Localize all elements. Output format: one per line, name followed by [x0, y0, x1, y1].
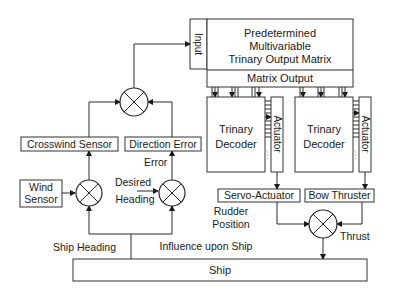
wind-sensor-line1: Wind — [29, 181, 53, 193]
top-sum-to-input — [134, 44, 190, 88]
matrix-to-left-decoder-lines — [212, 87, 259, 97]
matrix-title-line3: Trinary Output Matrix — [229, 53, 332, 65]
wind-sensor-block: Wind Sensor — [20, 180, 62, 207]
decoder-right-line1: Trinary — [307, 123, 341, 135]
ship-heading-to-right-sum — [131, 206, 172, 234]
crosswind-to-top-sum — [89, 102, 120, 137]
actuator-left: Actuator — [271, 97, 283, 172]
input-block: Input — [190, 19, 207, 69]
actuator-right: Actuator — [359, 97, 371, 172]
error-label: Error — [144, 156, 168, 168]
servo-actuator-block: Servo-Actuator — [218, 189, 300, 202]
trinary-decoder-left: Trinary Decoder — [207, 97, 265, 172]
summing-junction-top — [120, 88, 148, 116]
ship-label: Ship — [209, 264, 231, 276]
ship-block: Ship — [73, 259, 367, 281]
decoder-left-line1: Trinary — [219, 123, 253, 135]
summing-junction-right — [159, 180, 185, 206]
summing-junction-left — [76, 180, 102, 206]
desired-heading-label-1: Desired — [115, 176, 151, 188]
ship-heading-label: Ship Heading — [53, 241, 116, 253]
matrix-to-right-decoder-lines — [300, 87, 345, 97]
direction-error-label: Direction Error — [129, 138, 197, 150]
trinary-decoder-right: Trinary Decoder — [295, 97, 353, 172]
thrust-line — [337, 202, 362, 224]
desired-heading-label-2: Heading — [115, 193, 154, 205]
summing-junction-bottom — [309, 210, 337, 238]
matrix-title-line2: Multivariable — [249, 40, 311, 52]
direction-error-block: Direction Error — [125, 137, 201, 151]
rudder-position-label-2: Position — [212, 218, 250, 230]
rudder-position-label-1: Rudder — [214, 205, 249, 217]
actuator-left-label: Actuator — [272, 115, 283, 153]
crosswind-sensor-block: Crosswind Sensor — [21, 137, 118, 151]
input-label: Input — [193, 33, 204, 55]
bow-thruster-block: Bow Thruster — [305, 189, 374, 202]
decoder-right-line2: Decoder — [303, 138, 345, 150]
influence-label: Influence upon Ship — [160, 240, 253, 252]
wind-sensor-line2: Sensor — [24, 193, 58, 205]
trinary-output-matrix-block: Predetermined Multivariable Trinary Outp… — [207, 19, 353, 87]
thrust-label: Thrust — [340, 230, 370, 242]
direction-error-to-top-sum — [148, 102, 172, 137]
ship-heading-to-left-sum — [89, 206, 131, 234]
decoder-left-line2: Decoder — [215, 138, 257, 150]
control-diagram: Input Predetermined Multivariable Trinar… — [0, 0, 394, 293]
servo-actuator-label: Servo-Actuator — [224, 189, 295, 201]
matrix-output-label: Matrix Output — [247, 72, 313, 84]
rudder-position-line — [277, 202, 309, 224]
crosswind-sensor-label: Crosswind Sensor — [27, 138, 113, 150]
matrix-title-line1: Predetermined — [244, 27, 316, 39]
bow-thruster-label: Bow Thruster — [308, 189, 371, 201]
actuator-right-label: Actuator — [360, 115, 371, 153]
